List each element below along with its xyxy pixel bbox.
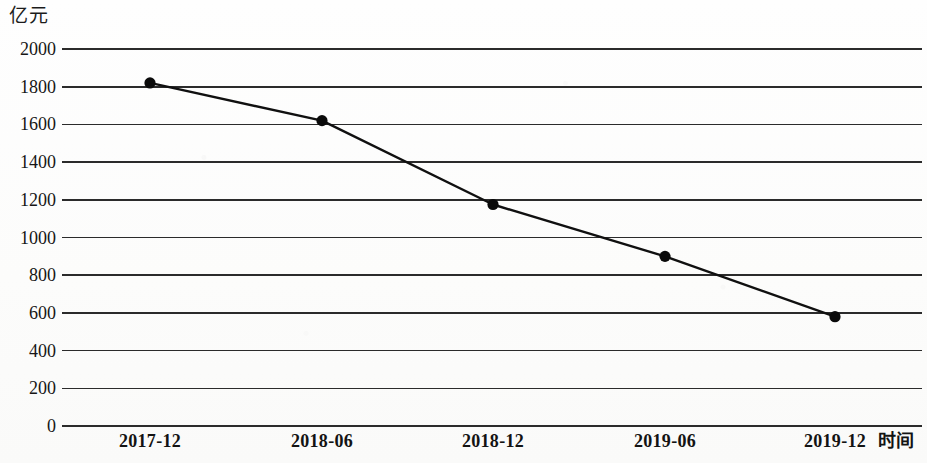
x-axis-tick-label: 2018-12 (462, 432, 524, 450)
x-axis-tick-label: 2018-06 (291, 432, 353, 450)
gridlines (62, 49, 922, 426)
data-point-marker (487, 199, 498, 210)
data-point-marker (659, 251, 670, 262)
x-axis-tick-label: 2019-06 (634, 432, 696, 450)
data-point-marker (144, 77, 155, 88)
x-axis-title: 时间 (878, 432, 914, 450)
line-chart-plot (0, 0, 927, 463)
x-axis-tick-label: 2019-12 (804, 432, 866, 450)
x-axis-tick-label: 2017-12 (119, 432, 181, 450)
chart-page: 亿元 2000180016001400120010008006004002000… (0, 0, 927, 463)
data-point-marker (316, 115, 327, 126)
data-point-marker (829, 311, 840, 322)
